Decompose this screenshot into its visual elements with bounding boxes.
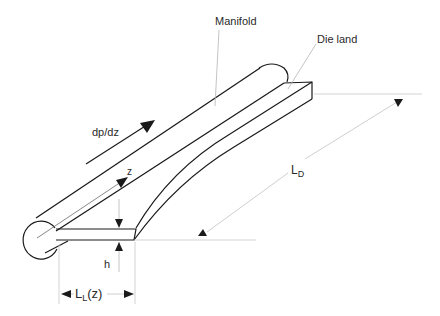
die-width-main: L <box>291 163 298 177</box>
die-width-label: LD <box>291 164 304 176</box>
ld-dim-line-lower <box>207 173 288 232</box>
ld-dim-line-upper <box>305 102 397 159</box>
land-length-label: LL(z) <box>75 287 102 300</box>
die-diagram: Manifold Die land dp/dz z h LD LL(z) <box>0 0 440 316</box>
land-length-arg: (z) <box>87 286 102 301</box>
h-dim-bottom-arrowhead <box>115 242 123 251</box>
pressure-gradient-label: dp/dz <box>92 127 119 138</box>
manifold-label: Manifold <box>215 16 257 27</box>
land-length-subscript: L <box>82 293 87 303</box>
manifold-leader <box>215 30 219 106</box>
z-axis-arrowhead <box>116 177 128 188</box>
manifold-lower-edge <box>56 83 284 231</box>
gap-height-label: h <box>104 259 110 270</box>
die-land-label: Die land <box>317 34 357 45</box>
die-land-near-slab <box>56 229 136 240</box>
die-land-edge-lower <box>134 99 312 240</box>
manifold-bottom-tangent <box>45 241 68 253</box>
die-drawing <box>0 0 440 316</box>
ll-arrowhead-right <box>124 290 134 298</box>
manifold-far-cap <box>259 64 288 82</box>
manifold-top-edge <box>36 68 260 218</box>
ll-arrowhead-left <box>61 290 71 298</box>
pressure-gradient-arrowhead <box>140 120 155 133</box>
ld-arrowhead-near <box>198 229 207 236</box>
z-axis-label: z <box>127 167 132 177</box>
manifold-near-cap <box>23 221 57 259</box>
h-dim-top-arrowhead <box>115 219 123 228</box>
die-width-subscript: D <box>298 169 305 179</box>
